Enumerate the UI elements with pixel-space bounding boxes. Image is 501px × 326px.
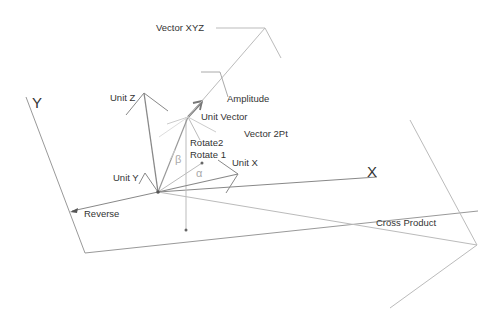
label-unit-x: Unit X xyxy=(232,158,258,168)
label-amplitude: Amplitude xyxy=(227,94,269,104)
label-alpha: α xyxy=(196,168,202,179)
y-axis-label: Y xyxy=(32,95,42,110)
label-rotate1: Rotate 1 xyxy=(190,150,226,160)
label-unit-y: Unit Y xyxy=(113,173,139,183)
origin-point xyxy=(156,190,160,194)
label-unit-vector: Unit Vector xyxy=(201,112,247,122)
label-vector-xyz: Vector XYZ xyxy=(156,23,204,33)
label-reverse: Reverse xyxy=(84,209,119,219)
x-axis-label: X xyxy=(367,164,377,179)
label-rotate2: Rotate2 xyxy=(190,138,223,148)
y-axis-line xyxy=(26,97,85,253)
label-beta: β xyxy=(175,154,181,165)
label-vector-2pt: Vector 2Pt xyxy=(244,129,288,139)
rotate1-point xyxy=(201,162,204,165)
label-unit-z: Unit Z xyxy=(110,93,135,103)
label-cross-product: Cross Product xyxy=(376,218,436,228)
reverse-arrowhead-icon xyxy=(70,208,78,213)
projection-point xyxy=(185,229,188,232)
